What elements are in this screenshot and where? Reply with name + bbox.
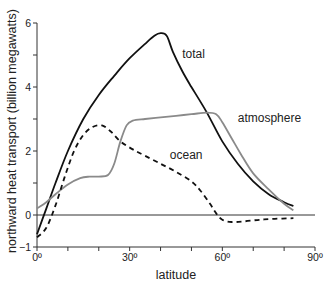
y-tick-label: 4 [25, 81, 31, 93]
series-group [37, 33, 293, 237]
y-tick-label: 0 [25, 209, 31, 221]
x-tick-label: 60º [215, 251, 231, 263]
axes: −102460º30º60º90º [19, 17, 323, 263]
heat-transport-chart: −102460º30º60º90º totalatmosphereocean l… [0, 0, 336, 283]
series-total-line [37, 33, 293, 234]
series-label-atmosphere: atmosphere [238, 111, 302, 125]
y-axis-label: northward heat transport (billion megawa… [5, 9, 19, 253]
x-tick-label: 0º [32, 251, 42, 263]
y-tick-label: −1 [19, 241, 31, 253]
series-label-total: total [182, 47, 205, 61]
chart-canvas: −102460º30º60º90º totalatmosphereocean l… [0, 0, 336, 283]
x-tick-label: 30º [122, 251, 138, 263]
y-tick-label: 6 [25, 17, 31, 29]
series-ocean-line [37, 125, 293, 237]
y-tick-label: 2 [25, 145, 31, 157]
x-tick-label: 90º [307, 251, 323, 263]
series-atmosphere-line [37, 113, 293, 211]
series-label-ocean: ocean [170, 148, 203, 162]
x-axis-label: latitude [156, 268, 196, 282]
